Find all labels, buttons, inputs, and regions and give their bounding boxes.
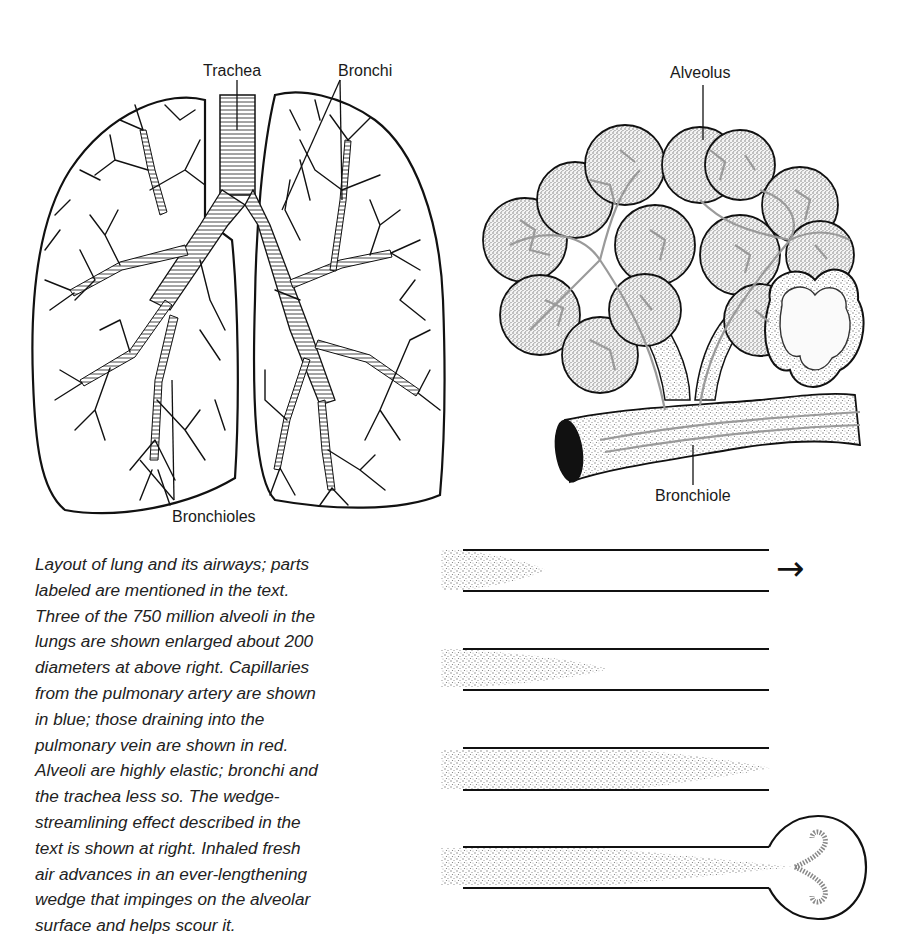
caption-line: lungs are shown enlarged about 200 [35, 629, 415, 655]
lung-illustration [0, 60, 460, 520]
caption-line: wedge that impinges on the alveolar [35, 887, 415, 913]
figure-caption: Layout of lung and its airways; parts la… [35, 552, 415, 938]
caption-line: Layout of lung and its airways; parts [35, 552, 415, 578]
caption-line: the trachea less so. The wedge- [35, 784, 415, 810]
caption-line: from the pulmonary artery are shown [35, 681, 415, 707]
caption-line: in blue; those draining into the [35, 707, 415, 733]
caption-line: air advances in an ever-lengthening [35, 862, 415, 888]
caption-line: text is shown at right. Inhaled fresh [35, 836, 415, 862]
wedge-stage-3 [441, 748, 770, 790]
caption-line: labeled are mentioned in the text. [35, 578, 415, 604]
bronchioles-label: Bronchioles [172, 508, 256, 526]
alveoli-illustration [470, 80, 870, 500]
bronchiole-label: Bronchiole [655, 487, 731, 505]
caption-line: diameters at above right. Capillaries [35, 655, 415, 681]
wedge-stage-1 [441, 550, 769, 591]
wedge-stage-2 [441, 649, 769, 690]
caption-line: Alveoli are highly elastic; bronchi and [35, 758, 415, 784]
caption-line: Three of the 750 million alveoli in the [35, 604, 415, 630]
bronchi-label: Bronchi [338, 62, 392, 80]
wedge-illustration [430, 530, 917, 920]
wedge-stage-4 [441, 816, 866, 919]
caption-line: pulmonary vein are shown in red. [35, 733, 415, 759]
trachea-label: Trachea [203, 62, 261, 80]
caption-line: streamlining effect described in the [35, 810, 415, 836]
alveolus-label: Alveolus [670, 64, 730, 82]
caption-line: surface and helps scour it. [35, 913, 415, 938]
flow-direction-arrow-icon: → [776, 551, 805, 585]
left-lung-outline [32, 98, 237, 514]
